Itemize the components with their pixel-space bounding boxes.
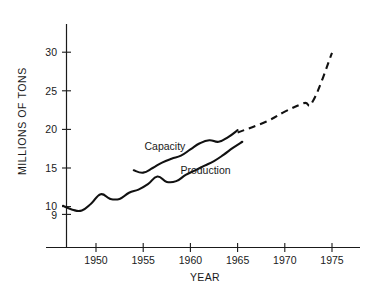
x-tick-label-1975: 1975 <box>320 254 344 266</box>
series-line-capacity-projection <box>238 53 332 133</box>
y-tick-label-9: 9 <box>51 209 57 221</box>
series-annotation-capacity: Capacity <box>144 140 186 152</box>
x-tick-label-1960: 1960 <box>179 254 203 266</box>
x-axis-title: YEAR <box>190 271 220 283</box>
y-tick-label-15: 15 <box>45 162 57 174</box>
line-chart-plot: 30 25 20 15 10 9 MILLIONS OF TONS 1950 1… <box>0 0 372 291</box>
series-annotation-production: Production <box>180 164 230 176</box>
x-tick-label-1970: 1970 <box>273 254 297 266</box>
chart-container: 30 25 20 15 10 9 MILLIONS OF TONS 1950 1… <box>0 0 372 291</box>
x-tick-label-1955: 1955 <box>132 254 156 266</box>
x-tick-label-1965: 1965 <box>226 254 250 266</box>
y-axis-title: MILLIONS OF TONS <box>16 67 28 175</box>
x-tick-label-1950: 1950 <box>84 254 108 266</box>
y-tick-label-25: 25 <box>45 85 57 97</box>
y-tick-label-20: 20 <box>45 123 57 135</box>
y-tick-label-30: 30 <box>45 46 57 58</box>
